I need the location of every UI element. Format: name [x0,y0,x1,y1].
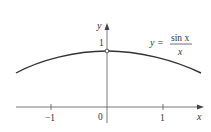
x-tick-label-neg1: −1 [45,113,55,123]
x-axis-label: x [196,111,202,122]
x-axis-arrow-icon [197,105,204,110]
equation-numerator: sin x [171,33,189,43]
equation-lhs: y = [149,37,164,48]
y-tick-label-1: 1 [99,38,104,48]
x-tick-label-1: 1 [160,113,165,123]
x-tick-label-0: 0 [98,112,103,122]
hole-marker [105,49,109,53]
equation-denominator: x [177,47,183,57]
chart: y x 1 −1 0 1 y = sin x x [0,0,211,132]
y-axis-arrow-icon [105,23,110,30]
y-axis-label: y [96,20,102,31]
sinc-curve [16,51,201,73]
